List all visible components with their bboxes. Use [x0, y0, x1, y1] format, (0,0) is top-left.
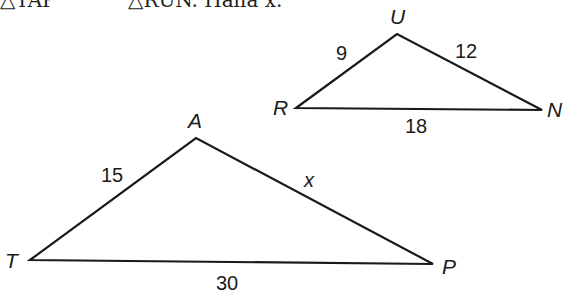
- triangle-run-outline: [296, 34, 542, 110]
- side-label-ta: 15: [101, 164, 123, 186]
- side-label-tp: 30: [216, 272, 238, 294]
- vertex-label-t: T: [5, 249, 20, 272]
- vertex-label-u: U: [390, 5, 406, 28]
- triangle-run: U R N 9 12 18: [273, 5, 563, 137]
- similar-triangles-diagram: U R N 9 12 18 A T P 15 x 30: [0, 0, 563, 300]
- triangle-tap-outline: [30, 138, 433, 264]
- side-label-rn: 18: [405, 115, 427, 137]
- side-label-un: 12: [455, 40, 477, 62]
- vertex-label-r: R: [273, 96, 288, 119]
- side-label-ru: 9: [336, 42, 347, 64]
- vertex-label-a: A: [186, 109, 202, 132]
- vertex-label-p: P: [442, 255, 456, 278]
- vertex-label-n: N: [547, 98, 563, 121]
- triangle-tap: A T P 15 x 30: [5, 109, 456, 294]
- side-label-ap: x: [303, 169, 315, 191]
